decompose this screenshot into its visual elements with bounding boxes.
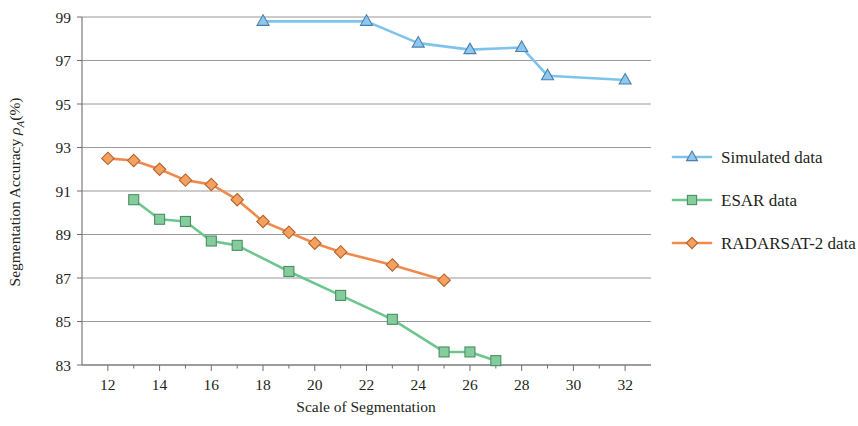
legend-item-simulated-data[interactable]: Simulated data: [673, 148, 823, 167]
data-point-marker: [516, 41, 528, 52]
legend-item-radarsat-2-data[interactable]: RADARSAT-2 data: [673, 234, 856, 253]
legend-marker-square-icon: [687, 195, 696, 204]
legend-label: RADARSAT-2 data: [721, 234, 856, 253]
data-point-marker: [180, 216, 190, 226]
x-tick-label-26: 26: [462, 376, 478, 393]
line-chart: 838587899193959799 121416182022242628303…: [0, 0, 858, 426]
x-axis-tick-labels: 1214161820222426283032: [100, 376, 633, 393]
data-point-marker: [284, 266, 294, 276]
data-point-marker: [179, 174, 191, 186]
x-axis-title: Scale of Segmentation: [296, 398, 436, 415]
data-point-marker: [387, 314, 397, 324]
y-axis-title-symbol: ρ: [6, 128, 23, 136]
x-tick-label-18: 18: [255, 376, 271, 393]
chart-figure: 838587899193959799 121416182022242628303…: [0, 0, 858, 426]
legend-label: Simulated data: [721, 148, 823, 167]
data-point-marker: [334, 246, 346, 258]
y-tick-label-99: 99: [56, 9, 72, 26]
data-point-marker: [309, 237, 321, 249]
legend-label: ESAR data: [721, 191, 797, 210]
data-point-marker: [102, 152, 114, 164]
data-point-marker: [206, 236, 216, 246]
y-tick-label-83: 83: [56, 357, 72, 374]
x-tick-label-28: 28: [514, 376, 530, 393]
data-point-marker: [439, 347, 449, 357]
y-axis-title-prefix: Segmentation Accuracy: [6, 135, 23, 287]
x-tick-label-12: 12: [100, 376, 116, 393]
y-axis-title-suffix: (%): [6, 98, 24, 121]
series-simulated-data: [257, 15, 631, 84]
x-tick-label-20: 20: [307, 376, 323, 393]
data-point-marker: [465, 347, 475, 357]
series-line: [263, 21, 625, 80]
data-series: [102, 15, 631, 366]
data-point-marker: [336, 290, 346, 300]
y-tick-label-95: 95: [56, 96, 72, 113]
data-point-marker: [283, 226, 295, 238]
axes: [77, 17, 651, 371]
legend-marker-diamond-icon: [686, 237, 697, 248]
data-point-marker: [386, 259, 398, 271]
x-tick-label-30: 30: [566, 376, 582, 393]
y-tick-label-89: 89: [56, 226, 72, 243]
x-tick-label-14: 14: [152, 376, 168, 393]
y-tick-label-93: 93: [56, 139, 72, 156]
y-axis-tick-labels: 838587899193959799: [56, 9, 72, 374]
y-tick-label-87: 87: [56, 270, 72, 287]
data-point-marker: [155, 214, 165, 224]
data-point-marker: [129, 195, 139, 205]
x-tick-label-24: 24: [410, 376, 426, 393]
data-point-marker: [491, 356, 501, 366]
y-tick-label-97: 97: [56, 52, 72, 69]
y-tick-label-85: 85: [56, 313, 72, 330]
data-point-marker: [438, 274, 450, 286]
data-point-marker: [153, 163, 165, 175]
data-point-marker: [205, 178, 217, 190]
y-tick-label-91: 91: [56, 183, 72, 200]
x-tick-label-32: 32: [617, 376, 633, 393]
data-point-marker: [128, 154, 140, 166]
x-tick-label-16: 16: [204, 376, 220, 393]
data-point-marker: [232, 240, 242, 250]
x-tick-label-22: 22: [359, 376, 375, 393]
legend-item-esar-data[interactable]: ESAR data: [673, 191, 797, 210]
gridlines: [82, 17, 651, 365]
chart-legend: Simulated dataESAR dataRADARSAT-2 data: [673, 148, 856, 253]
y-axis-title: Segmentation Accuracy ρA(%): [6, 98, 26, 287]
